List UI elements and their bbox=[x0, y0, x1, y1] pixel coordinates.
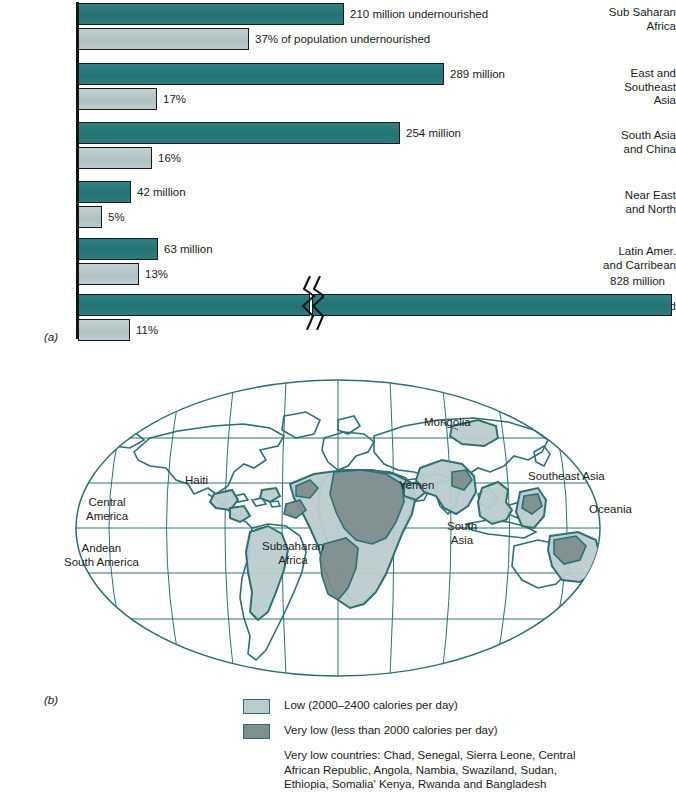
category-label-latin-amer-carribean: Latin Amer. and Carribean bbox=[600, 245, 676, 272]
bar-millions-south-asia-china bbox=[78, 122, 400, 144]
figure-root: Sub Saharan Africa East and Southeast As… bbox=[0, 0, 676, 804]
bar-value-millions-south-asia-china: 254 million bbox=[406, 122, 461, 144]
axis-break-symbol bbox=[298, 276, 324, 330]
map-legend: Low (2000–2400 calories per day) Very lo… bbox=[243, 698, 663, 792]
category-label-east-southeast-asia: East and Southeast Asia bbox=[600, 67, 676, 108]
map-panel: Central America Haiti Andean South Ameri… bbox=[0, 368, 676, 804]
bar-percent-east-southeast-asia bbox=[78, 88, 157, 110]
low-swatch bbox=[243, 699, 270, 714]
panel-a-label: (a) bbox=[44, 331, 58, 343]
bar-millions-near-east-north bbox=[78, 181, 131, 203]
bar-millions-east-southeast-asia bbox=[78, 63, 444, 85]
bar-value-millions-latin-amer-carribean: 63 million bbox=[164, 238, 213, 260]
bar-value-millions-near-east-north: 42 million bbox=[137, 181, 186, 203]
bar-value-millions-world: 828 million bbox=[610, 270, 665, 292]
bar-millions-world-right bbox=[312, 294, 672, 316]
bar-value-millions-sub-saharan-africa: 210 million undernourished bbox=[350, 3, 488, 25]
panel-b-label: (b) bbox=[44, 694, 58, 706]
bar-percent-sub-saharan-africa bbox=[78, 28, 249, 50]
legend-row-very-low: Very low (less than 2000 calories per da… bbox=[243, 723, 663, 739]
bar-chart-panel: Sub Saharan Africa East and Southeast As… bbox=[0, 0, 676, 360]
legend-row-low: Low (2000–2400 calories per day) bbox=[243, 698, 663, 714]
bar-millions-sub-saharan-africa bbox=[78, 3, 344, 25]
bar-percent-near-east-north bbox=[78, 206, 102, 228]
bar-percent-latin-amer-carribean bbox=[78, 263, 139, 285]
bar-value-percent-near-east-north: 5% bbox=[108, 206, 125, 228]
bar-percent-world bbox=[78, 319, 130, 341]
bar-value-percent-world: 11% bbox=[136, 319, 158, 341]
world-map bbox=[38, 376, 638, 686]
bar-value-millions-east-southeast-asia: 289 million bbox=[450, 63, 505, 85]
very-low-swatch bbox=[243, 724, 270, 739]
legend-label-low: Low (2000–2400 calories per day) bbox=[284, 698, 458, 712]
category-label-sub-saharan-africa: Sub Saharan Africa bbox=[600, 6, 676, 33]
bar-value-percent-latin-amer-carribean: 13% bbox=[145, 263, 168, 285]
chart-axis-line bbox=[76, 2, 79, 339]
category-label-near-east-north: Near East and North bbox=[600, 189, 676, 216]
legend-note-very-low-countries: Very low countries: Chad, Senegal, Sierr… bbox=[284, 748, 663, 792]
bar-value-percent-south-asia-china: 16% bbox=[158, 147, 181, 169]
category-label-south-asia-china: South Asia and China bbox=[600, 129, 676, 156]
bar-value-percent-east-southeast-asia: 17% bbox=[163, 88, 186, 110]
legend-label-very-low: Very low (less than 2000 calories per da… bbox=[284, 723, 498, 737]
bar-value-percent-sub-saharan-africa: 37% of population undernourished bbox=[255, 28, 430, 50]
bar-percent-south-asia-china bbox=[78, 147, 152, 169]
bar-millions-latin-amer-carribean bbox=[78, 238, 158, 260]
bar-millions-world-left bbox=[78, 294, 310, 316]
